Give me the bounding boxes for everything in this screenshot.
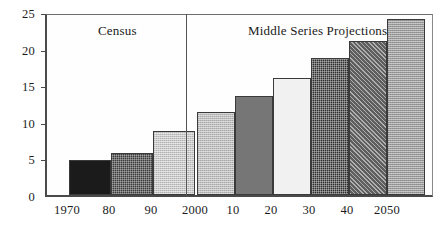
y-tick-label-15: 15 xyxy=(0,81,45,93)
x-tick-label-30: 30 xyxy=(290,203,328,217)
bar-2000 xyxy=(197,112,235,195)
bar-chart: 25 20 15 10 5 0 Census Middle Series Pro… xyxy=(0,0,435,230)
bar-1970 xyxy=(69,160,111,195)
x-tick-label-40: 40 xyxy=(328,203,366,217)
panel-divider xyxy=(186,14,187,197)
y-tick-label-10: 10 xyxy=(0,118,45,130)
y-tick-label-0: 0 xyxy=(0,191,45,203)
x-tick-label-1970: 1970 xyxy=(46,203,88,217)
x-tick-label-80: 80 xyxy=(88,203,130,217)
x-tick-label-2000: 2000 xyxy=(176,203,214,217)
bar-10 xyxy=(235,96,273,196)
bar-2050 xyxy=(387,19,425,195)
panel-caption-census: Census xyxy=(98,23,137,38)
y-tick-label-25: 25 xyxy=(0,8,45,20)
y-tick-label-20: 20 xyxy=(0,45,45,57)
y-tick-label-5: 5 xyxy=(0,154,45,166)
bar-80 xyxy=(111,153,153,195)
panel-caption-projections: Middle Series Projections xyxy=(248,23,387,38)
bar-30 xyxy=(311,58,349,195)
x-tick-label-20: 20 xyxy=(252,203,290,217)
bar-40 xyxy=(349,41,387,195)
x-tick-label-10: 10 xyxy=(214,203,252,217)
plot-area xyxy=(45,14,433,197)
bar-90 xyxy=(153,131,195,195)
x-tick-label-90: 90 xyxy=(130,203,172,217)
x-tick-label-2050: 2050 xyxy=(366,203,408,217)
bar-20 xyxy=(273,78,311,195)
